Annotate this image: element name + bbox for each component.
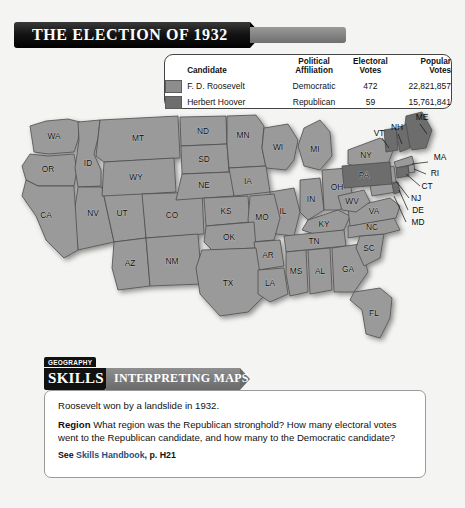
label-UT: UT (116, 208, 127, 218)
legend-header-candidate: Candidate (187, 55, 280, 78)
popular-line1: Popular (421, 57, 451, 66)
geography-skills-bar: GEOGRAPHY SKILLS INTERPRETING MAPS (44, 366, 240, 391)
label-NJ: NJ (411, 193, 421, 203)
legend-candidate-popular-votes: 22,821,857 (393, 78, 451, 94)
figure-page: THE ELECTION OF 1932 Candidate Political… (0, 0, 465, 508)
label-OR: OR (42, 164, 55, 174)
legend-swatch-cell (165, 78, 187, 94)
legend-header-swatch (165, 55, 187, 78)
roosevelt-states (22, 115, 415, 338)
skills-subtitle: INTERPRETING MAPS (114, 371, 249, 386)
affiliation-line2: Affiliation (295, 66, 333, 75)
label-MI: MI (310, 144, 319, 154)
electoral-line1: Electoral (353, 57, 388, 66)
leader-DE (399, 190, 408, 210)
legend-header-popular: Popular Votes (393, 55, 451, 78)
leader-CT (406, 174, 420, 186)
label-IA: IA (244, 176, 252, 186)
label-VT: VT (374, 128, 385, 138)
legend-candidate-name: F. D. Roosevelt (187, 78, 280, 94)
label-CA: CA (40, 210, 52, 220)
label-MA: MA (434, 152, 447, 162)
table-row: F. D. Roosevelt Democratic 472 22,821,85… (165, 78, 451, 94)
title-banner: THE ELECTION OF 1932 (14, 22, 344, 48)
label-NE: NE (198, 180, 210, 190)
label-NC: NC (366, 222, 378, 232)
legend-candidate-affiliation: Democratic (280, 78, 348, 94)
label-AL: AL (315, 266, 326, 276)
leader-MA (412, 162, 428, 164)
label-GA: GA (342, 264, 355, 274)
leader-RI (414, 169, 426, 174)
label-MN: MN (236, 130, 249, 140)
label-MT: MT (132, 133, 144, 143)
label-OH: OH (331, 182, 344, 192)
label-AZ: AZ (125, 258, 136, 268)
legend-header-electoral: Electoral Votes (348, 55, 392, 78)
skills-label: SKILLS (48, 370, 104, 387)
label-PA: PA (359, 170, 370, 180)
label-MD: MD (411, 217, 424, 227)
state-RI (408, 164, 415, 173)
label-CO: CO (166, 210, 179, 220)
label-ND: ND (197, 126, 209, 136)
state-CT (396, 166, 409, 178)
see-prefix: See (58, 450, 76, 460)
label-SC: SC (363, 243, 375, 253)
caption-question: Region What region was the Republican st… (58, 419, 412, 445)
skills-handbook-link[interactable]: Skills Handbook (76, 450, 144, 460)
label-AR: AR (262, 250, 274, 260)
label-WA: WA (47, 131, 61, 141)
label-NY: NY (360, 150, 372, 160)
label-WV: WV (345, 196, 359, 206)
label-MS: MS (290, 266, 303, 276)
skills-caption-panel: Roosevelt won by a landslide in 1932. Re… (44, 390, 426, 478)
label-NM: NM (165, 256, 178, 266)
label-WI: WI (273, 142, 283, 152)
page-title: THE ELECTION OF 1932 (32, 26, 228, 44)
label-FL: FL (369, 308, 379, 318)
label-SD: SD (198, 154, 210, 164)
label-DE: DE (412, 205, 424, 215)
legend-header-affiliation: Political Affiliation (280, 55, 348, 78)
label-KY: KY (318, 219, 330, 229)
label-RI: RI (431, 168, 439, 178)
label-TX: TX (223, 278, 234, 288)
see-suffix: , p. H21 (145, 450, 176, 460)
label-ID: ID (84, 158, 92, 168)
legend-header-row: Candidate Political Affiliation Electora… (165, 55, 451, 78)
label-NV: NV (87, 208, 99, 218)
geography-label: GEOGRAPHY (44, 357, 96, 367)
question-text: What region was the Republican stronghol… (58, 419, 397, 443)
caption-statement: Roosevelt won by a landslide in 1932. (58, 400, 412, 413)
label-NH: NH (391, 122, 403, 132)
label-CT: CT (421, 181, 432, 191)
label-WY: WY (129, 172, 143, 182)
label-VA: VA (369, 206, 380, 216)
electoral-map: WA OR ID MT ND SD MN WI MI NV CA UT WY C… (8, 108, 460, 370)
legend-candidate-electoral-votes: 472 (348, 78, 392, 94)
label-OK: OK (223, 232, 236, 242)
electoral-line2: Votes (360, 66, 382, 75)
label-KS: KS (220, 206, 232, 216)
state-MN (227, 115, 266, 168)
label-LA: LA (265, 278, 276, 288)
banner-gray-tail (250, 27, 346, 43)
label-TN: TN (308, 236, 319, 246)
label-MO: MO (255, 212, 269, 222)
affiliation-line1: Political (298, 57, 329, 66)
legend-table: Candidate Political Affiliation Electora… (164, 54, 452, 109)
question-label: Region (58, 419, 91, 430)
see-reference: See Skills Handbook, p. H21 (58, 450, 412, 460)
label-ME: ME (416, 112, 429, 122)
popular-line2: Votes (429, 66, 451, 75)
label-IL: IL (280, 206, 287, 216)
hoover-color-swatch (165, 96, 182, 109)
label-IN: IN (307, 194, 315, 204)
roosevelt-color-swatch (165, 80, 182, 93)
